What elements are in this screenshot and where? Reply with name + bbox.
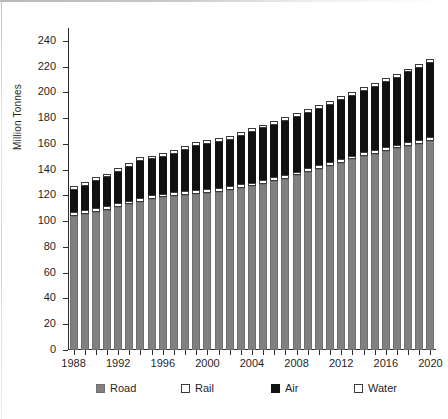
bar-column — [315, 28, 323, 350]
bar-segment-air — [192, 146, 200, 190]
legend-label: Water — [368, 382, 397, 394]
bar-column — [304, 28, 312, 350]
bar-segment-road — [315, 169, 323, 350]
bar-segment-air — [337, 100, 345, 159]
bar-segment-air — [393, 78, 401, 145]
x-tick-mark — [274, 350, 275, 355]
x-tick-mark — [419, 350, 420, 355]
x-tick-mark — [352, 350, 353, 355]
bar-segment-air — [148, 159, 156, 194]
x-tick-mark — [152, 350, 153, 355]
bar-column — [237, 28, 245, 350]
y-tick-label: 120 — [20, 188, 56, 200]
bar-segment-road — [270, 181, 278, 350]
y-tick-label: 40 — [20, 291, 56, 303]
x-tick-mark — [297, 350, 298, 355]
bar-segment-road — [136, 202, 144, 350]
y-tick-label: 160 — [20, 137, 56, 149]
bar-column — [203, 28, 211, 350]
bar-segment-road — [371, 154, 379, 350]
bar-segment-air — [203, 144, 211, 189]
x-tick-mark — [140, 350, 141, 355]
bar-column — [70, 28, 78, 350]
x-tick-mark — [118, 350, 119, 355]
x-tick-mark — [263, 350, 264, 355]
bar-segment-air — [360, 91, 368, 152]
y-tick-label: 140 — [20, 163, 56, 175]
bar-segment-road — [259, 184, 267, 350]
x-tick-mark — [375, 350, 376, 355]
bar-column — [148, 28, 156, 350]
x-tick-mark — [174, 350, 175, 355]
bar-column — [114, 28, 122, 350]
bar-segment-air — [259, 128, 267, 180]
bar-segment-air — [348, 96, 356, 156]
bar-segment-road — [393, 148, 401, 350]
bar-column — [259, 28, 267, 350]
x-tick-mark — [430, 350, 431, 355]
bar-segment-air — [315, 109, 323, 165]
bar-segment-air — [326, 105, 334, 162]
bar-column — [382, 28, 390, 350]
bar-column — [281, 28, 289, 350]
x-tick-mark — [219, 350, 220, 355]
x-tick-mark — [96, 350, 97, 355]
bar-segment-road — [81, 214, 89, 350]
x-tick-mark — [241, 350, 242, 355]
bar-column — [226, 28, 234, 350]
bar-segment-road — [215, 192, 223, 350]
bar-segment-road — [304, 172, 312, 350]
bar-segment-air — [136, 161, 144, 198]
x-tick-mark — [364, 350, 365, 355]
bar-segment-air — [382, 82, 390, 147]
x-tick-mark — [386, 350, 387, 355]
bar-column — [125, 28, 133, 350]
bar-column — [270, 28, 278, 350]
x-tick-mark — [397, 350, 398, 355]
bar-column — [81, 28, 89, 350]
legend-item-air[interactable]: Air — [271, 382, 298, 394]
bar-column — [103, 28, 111, 350]
legend-item-road[interactable]: Road — [96, 382, 136, 394]
bar-segment-road — [192, 194, 200, 350]
bar-segment-air — [371, 87, 379, 150]
x-tick-mark — [319, 350, 320, 355]
y-tick-label: 180 — [20, 111, 56, 123]
legend-item-water[interactable]: Water — [354, 382, 397, 394]
x-tick-mark — [408, 350, 409, 355]
bar-column — [371, 28, 379, 350]
bar-segment-road — [226, 190, 234, 350]
bar-segment-air — [81, 186, 89, 210]
bar-column — [170, 28, 178, 350]
x-tick-mark — [308, 350, 309, 355]
bar-segment-road — [159, 197, 167, 350]
stacked-bar-chart: Million Tonnes 0204060801001201401601802… — [0, 0, 448, 419]
bar-segment-air — [181, 150, 189, 191]
legend-label: Road — [110, 382, 136, 394]
bar-segment-air — [170, 154, 178, 192]
bar-segment-air — [92, 181, 100, 209]
bar-segment-road — [337, 163, 345, 350]
bar-column — [426, 28, 434, 350]
bar-segment-road — [382, 151, 390, 350]
bar-segment-air — [103, 177, 111, 205]
y-tick-label: 200 — [20, 85, 56, 97]
bar-segment-air — [237, 136, 245, 185]
x-tick-label: 2020 — [410, 357, 448, 369]
bar-segment-road — [92, 212, 100, 350]
bar-column — [415, 28, 423, 350]
bar-column — [326, 28, 334, 350]
x-tick-mark — [252, 350, 253, 355]
x-tick-mark — [285, 350, 286, 355]
bar-segment-air — [293, 117, 301, 172]
bar-column — [360, 28, 368, 350]
legend-swatch-rail-icon — [181, 384, 190, 393]
legend-item-rail[interactable]: Rail — [181, 382, 214, 394]
x-tick-mark — [230, 350, 231, 355]
bar-column — [393, 28, 401, 350]
bar-segment-road — [415, 144, 423, 350]
x-tick-mark — [129, 350, 130, 355]
bar-segment-road — [360, 156, 368, 350]
legend-swatch-water-icon — [354, 384, 363, 393]
bar-segment-road — [181, 195, 189, 350]
